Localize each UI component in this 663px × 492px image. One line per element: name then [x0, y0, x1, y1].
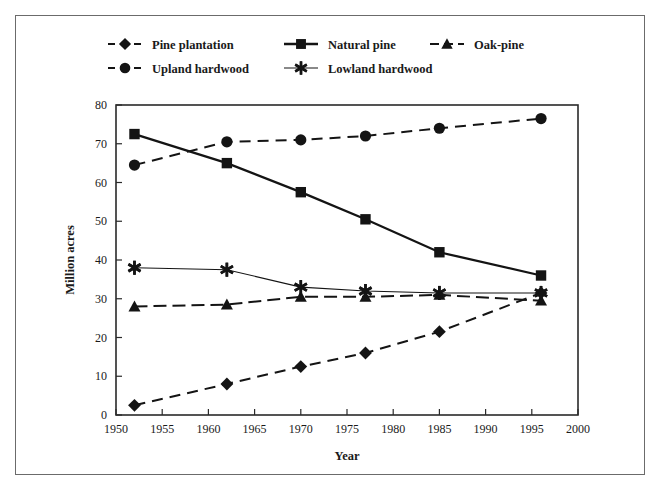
y-tick-label: 20 — [95, 331, 107, 345]
series-lowland-hardwood — [128, 261, 547, 300]
y-tick-label: 70 — [95, 137, 107, 151]
x-tick-label: 1980 — [381, 422, 405, 436]
x-tick-label: 2000 — [566, 422, 590, 436]
series-path — [134, 268, 541, 293]
legend-label: Lowland hardwood — [328, 62, 433, 76]
legend-item-oak-pine: Oak-pine — [430, 38, 524, 52]
series-pine-plantation — [128, 287, 547, 412]
plot-area-border — [116, 105, 578, 415]
series-path — [134, 119, 541, 166]
data-point — [434, 123, 445, 134]
y-tick-label: 60 — [95, 176, 107, 190]
data-point — [434, 247, 444, 257]
data-point — [295, 134, 306, 145]
data-point — [294, 360, 307, 373]
forest-area-line-chart: Pine plantationNatural pineOak-pineUplan… — [0, 0, 663, 492]
legend-square-icon — [296, 39, 306, 49]
y-tick-label: 0 — [101, 408, 107, 422]
data-point — [360, 130, 371, 141]
legend-label: Natural pine — [328, 38, 396, 52]
chart-series-layer — [128, 113, 547, 412]
legend-label: Pine plantation — [152, 38, 234, 52]
x-tick-label: 1990 — [474, 422, 498, 436]
y-tick-label: 40 — [95, 253, 107, 267]
legend-label: Upland hardwood — [152, 62, 249, 76]
data-point — [221, 136, 232, 147]
y-tick-label: 50 — [95, 214, 107, 228]
chart-axes: 1950195519601965197019751980198519901995… — [95, 98, 590, 436]
legend-item-lowland-hardwood: Lowland hardwood — [284, 61, 433, 76]
chart-legend: Pine plantationNatural pineOak-pineUplan… — [108, 38, 524, 76]
x-tick-label: 1995 — [520, 422, 544, 436]
x-tick-label: 1950 — [104, 422, 128, 436]
x-tick-label: 1965 — [243, 422, 267, 436]
data-point — [360, 214, 370, 224]
x-tick-label: 1985 — [427, 422, 451, 436]
x-tick-label: 1955 — [150, 422, 174, 436]
data-point — [220, 378, 233, 391]
x-tick-label: 1960 — [196, 422, 220, 436]
data-point — [128, 399, 141, 412]
series-path — [134, 134, 541, 275]
legend-item-upland-hardwood: Upland hardwood — [108, 62, 249, 76]
legend-diamond-icon — [119, 38, 131, 50]
y-tick-label: 10 — [95, 369, 107, 383]
y-tick-label: 80 — [95, 98, 107, 112]
data-point — [222, 158, 232, 168]
data-point — [433, 325, 446, 338]
x-axis-title: Year — [335, 449, 360, 463]
series-path — [134, 295, 541, 307]
data-point — [129, 129, 139, 139]
x-tick-label: 1970 — [289, 422, 313, 436]
x-tick-label: 1975 — [335, 422, 359, 436]
series-oak-pine — [128, 289, 547, 312]
data-point — [359, 347, 372, 360]
series-upland-hardwood — [129, 113, 547, 171]
legend-circle-icon — [120, 63, 131, 74]
y-tick-label: 30 — [95, 292, 107, 306]
data-point — [296, 187, 306, 197]
data-point — [535, 113, 546, 124]
legend-label: Oak-pine — [474, 38, 524, 52]
y-axis-title: Million acres — [63, 225, 77, 295]
data-point — [129, 159, 140, 170]
legend-item-pine-plantation: Pine plantation — [108, 38, 234, 52]
legend-item-natural-pine: Natural pine — [284, 38, 396, 52]
data-point — [536, 270, 546, 280]
series-path — [134, 293, 541, 405]
